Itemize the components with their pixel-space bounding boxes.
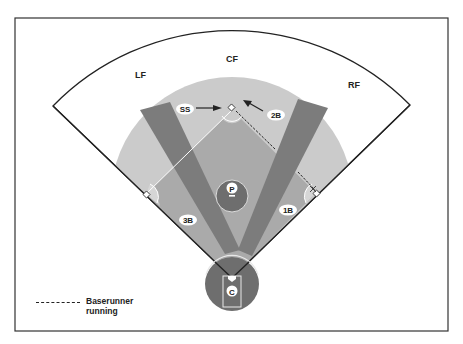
legend-label: Baserunner running (86, 296, 146, 316)
pitcher-label: P (229, 185, 235, 194)
label-rf: RF (348, 80, 360, 90)
label-cf: CF (226, 54, 238, 64)
legend: Baserunner running (36, 296, 146, 316)
label-2b: 2B (271, 111, 281, 120)
label-lf: LF (135, 70, 146, 80)
label-ss: SS (180, 105, 191, 114)
baseball-field-diagram: C P LF CF RF SS 2B 1B 3B (0, 0, 463, 344)
dashed-line-swatch (36, 302, 80, 303)
catcher-label: C (229, 288, 235, 297)
label-3b: 3B (183, 216, 193, 225)
pitching-rubber (229, 195, 235, 197)
catcher-circle (205, 257, 259, 311)
label-1b: 1B (283, 206, 293, 215)
